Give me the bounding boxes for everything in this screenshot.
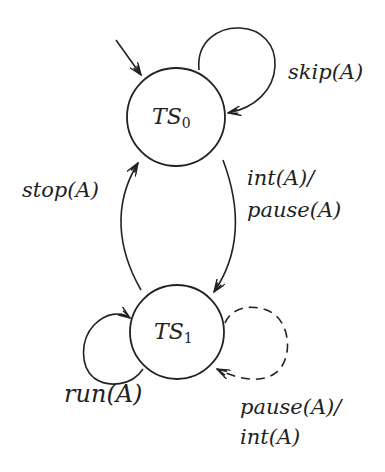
transition-pause-int-loop — [217, 307, 288, 379]
transition-stop-edge — [121, 163, 141, 290]
label-pause-int-line1: pause(A)/ — [240, 397, 341, 418]
state-ts0-label: TS0 — [152, 106, 191, 130]
transition-skip-loop — [199, 28, 275, 113]
label-int-pause-line2: pause(A) — [247, 200, 341, 221]
state-ts1-label: TS1 — [154, 321, 193, 345]
label-int-pause-line1: int(A)/ — [247, 168, 314, 189]
label-stop: stop(A) — [22, 180, 99, 201]
label-skip: skip(A) — [288, 62, 363, 83]
label-pause-int-line2: int(A) — [240, 427, 300, 448]
transition-int-pause-edge — [214, 160, 235, 292]
label-run: run(A) — [64, 382, 142, 406]
initial-arrow — [116, 40, 141, 75]
